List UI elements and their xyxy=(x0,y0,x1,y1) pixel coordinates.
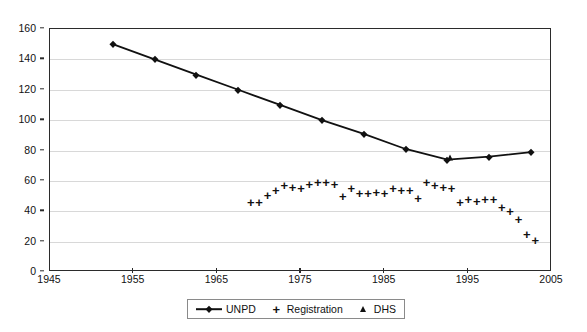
legend-item-dhs[interactable]: DHS xyxy=(357,303,396,315)
x-tick-mark-1975 xyxy=(299,268,300,273)
series-line-unpd xyxy=(50,29,552,272)
legend-label: Registration xyxy=(287,303,343,315)
data-series-layer: +++++++++++++++++++++++++++++++++++ xyxy=(50,29,550,270)
x-tick-mark-1985 xyxy=(383,268,384,273)
data-point-registration: + xyxy=(423,176,431,189)
data-point-registration: + xyxy=(356,187,364,200)
x-tick-mark-1965 xyxy=(216,268,217,273)
y-axis: 020406080100120140160 xyxy=(0,28,44,271)
data-point-registration: + xyxy=(506,205,514,218)
data-point-registration: + xyxy=(364,187,372,200)
data-point-registration: + xyxy=(314,176,322,189)
data-point-registration: + xyxy=(481,193,489,206)
data-point-registration: + xyxy=(272,183,280,196)
data-point-registration: + xyxy=(414,191,422,204)
x-tick-mark-1955 xyxy=(132,268,133,273)
y-tick-mark-0 xyxy=(40,270,44,271)
data-point-dhs xyxy=(447,154,453,160)
data-point-registration: + xyxy=(473,194,481,207)
legend-plus-icon: + xyxy=(270,303,283,316)
data-point-registration: + xyxy=(373,185,381,198)
y-tick-label-120: 120 xyxy=(18,84,36,95)
y-tick-mark-40 xyxy=(40,210,44,211)
data-point-registration: + xyxy=(406,183,414,196)
y-tick-mark-160 xyxy=(40,27,44,28)
y-tick-mark-140 xyxy=(40,58,44,59)
data-point-registration: + xyxy=(347,182,355,195)
y-tick-mark-80 xyxy=(40,149,44,150)
data-point-registration: + xyxy=(439,180,447,193)
legend-label: UNPD xyxy=(226,303,256,315)
data-point-registration: + xyxy=(381,187,389,200)
y-tick-mark-100 xyxy=(40,118,44,119)
y-tick-label-0: 0 xyxy=(30,266,36,277)
x-tick-label-1985: 1985 xyxy=(372,274,395,285)
data-point-registration: + xyxy=(264,188,272,201)
legend-triangle-icon xyxy=(357,306,370,312)
data-point-registration: + xyxy=(531,234,539,247)
chart-figure: 020406080100120140160 ++++++++++++++++++… xyxy=(0,0,587,332)
data-point-registration: + xyxy=(431,179,439,192)
data-point-registration: + xyxy=(297,182,305,195)
x-tick-label-2005: 2005 xyxy=(539,274,562,285)
y-tick-mark-120 xyxy=(40,88,44,89)
data-point-registration: + xyxy=(331,177,339,190)
data-point-registration: + xyxy=(280,179,288,192)
y-tick-label-140: 140 xyxy=(18,53,36,64)
x-axis: 1945195519651975198519952005 xyxy=(49,274,551,292)
x-tick-label-1945: 1945 xyxy=(37,274,60,285)
data-point-registration: + xyxy=(339,190,347,203)
data-point-registration: + xyxy=(465,193,473,206)
x-tick-label-1955: 1955 xyxy=(121,274,144,285)
x-tick-label-1995: 1995 xyxy=(456,274,479,285)
y-tick-mark-20 xyxy=(40,240,44,241)
data-point-registration: + xyxy=(255,196,263,209)
data-point-registration: + xyxy=(490,193,498,206)
y-tick-label-60: 60 xyxy=(24,175,36,186)
y-tick-label-100: 100 xyxy=(18,114,36,125)
y-tick-label-40: 40 xyxy=(24,205,36,216)
y-tick-mark-60 xyxy=(40,179,44,180)
y-tick-label-20: 20 xyxy=(24,235,36,246)
data-point-registration: + xyxy=(306,177,314,190)
data-point-registration: + xyxy=(398,183,406,196)
plot-area: +++++++++++++++++++++++++++++++++++ xyxy=(49,28,551,271)
data-point-registration: + xyxy=(498,200,506,213)
data-point-registration: + xyxy=(448,182,456,195)
data-point-registration: + xyxy=(389,182,397,195)
y-tick-label-160: 160 xyxy=(18,23,36,34)
legend-item-registration[interactable]: +Registration xyxy=(270,303,343,316)
data-point-registration: + xyxy=(322,176,330,189)
data-point-registration: + xyxy=(247,196,255,209)
data-point-registration: + xyxy=(523,228,531,241)
y-tick-label-80: 80 xyxy=(24,144,36,155)
data-point-registration: + xyxy=(515,212,523,225)
legend-item-unpd[interactable]: UNPD xyxy=(196,303,256,315)
legend-line-diamond-icon xyxy=(196,304,222,314)
data-point-registration: + xyxy=(456,196,464,209)
legend-label: DHS xyxy=(374,303,396,315)
data-point-registration: + xyxy=(289,180,297,193)
x-tick-mark-1995 xyxy=(467,268,468,273)
x-tick-label-1975: 1975 xyxy=(288,274,311,285)
x-tick-label-1965: 1965 xyxy=(205,274,228,285)
chart-legend: UNPD+RegistrationDHS xyxy=(187,299,405,319)
